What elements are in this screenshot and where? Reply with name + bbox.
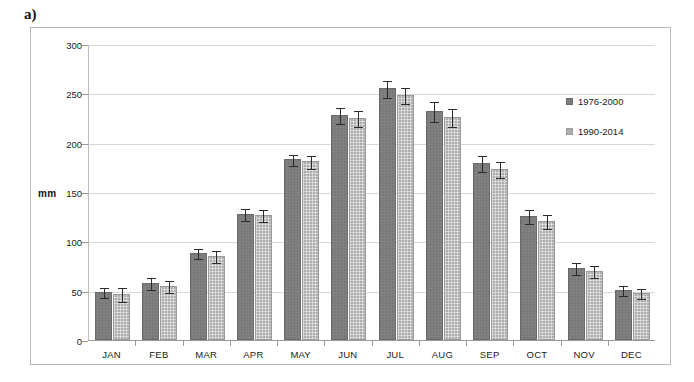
bar — [426, 111, 443, 340]
x-axis-tick-label: JUN — [338, 349, 357, 360]
y-axis-tick-label: 200 — [66, 138, 82, 149]
panel-letter: a) — [24, 6, 37, 23]
y-axis-tick-mark — [82, 292, 88, 293]
error-bar-cap — [448, 127, 457, 128]
bar — [586, 271, 603, 340]
error-bar — [198, 249, 199, 259]
bar — [142, 283, 159, 340]
x-axis-tick-label: MAR — [195, 349, 217, 360]
bar — [95, 292, 112, 340]
error-bar-cap — [619, 286, 628, 287]
bar-group — [373, 45, 420, 340]
error-bar-cap — [289, 155, 298, 156]
bar — [444, 117, 461, 340]
x-axis-tick-mark — [183, 341, 184, 346]
bar — [379, 88, 396, 340]
y-axis-tick-label: 50 — [71, 286, 82, 297]
bar — [520, 216, 537, 340]
error-bar — [340, 108, 341, 124]
x-axis-tick-mark — [324, 341, 325, 346]
bar — [208, 256, 225, 340]
error-bar-cap — [619, 296, 628, 297]
error-bar-cap — [259, 222, 268, 223]
error-bar — [594, 266, 595, 278]
x-axis-tick-label: AUG — [432, 349, 453, 360]
error-bar-cap — [212, 251, 221, 252]
error-bar-cap — [118, 288, 127, 289]
bar — [190, 253, 207, 340]
bar — [255, 215, 272, 340]
bar-group — [184, 45, 231, 340]
bar — [633, 293, 650, 340]
bar-group — [609, 45, 656, 340]
error-bar-cap — [590, 266, 599, 267]
y-axis-tick-mark — [82, 144, 88, 145]
x-axis-tick-mark — [513, 341, 514, 346]
y-axis-tick-mark — [82, 341, 88, 342]
error-bar — [452, 109, 453, 127]
error-bar — [387, 81, 388, 99]
y-axis-tick-label: 300 — [66, 40, 82, 51]
legend-swatch — [566, 98, 573, 105]
error-bar-cap — [118, 302, 127, 303]
bar — [160, 286, 177, 340]
error-bar-cap — [289, 166, 298, 167]
error-bar — [405, 88, 406, 104]
error-bar-cap — [401, 88, 410, 89]
x-axis-tick-label: OCT — [527, 349, 548, 360]
error-bar — [500, 162, 501, 178]
legend-swatch — [566, 128, 573, 135]
error-bar-cap — [383, 81, 392, 82]
error-bar-cap — [354, 111, 363, 112]
error-bar-cap — [478, 172, 487, 173]
error-bar-cap — [241, 221, 250, 222]
x-axis-tick-label: SEP — [480, 349, 500, 360]
error-bar — [547, 215, 548, 229]
error-bar-cap — [259, 210, 268, 211]
error-bar — [623, 286, 624, 296]
y-axis-tick-mark — [82, 193, 88, 194]
bar-group — [325, 45, 372, 340]
error-bar — [169, 281, 170, 293]
error-bar — [245, 209, 246, 221]
error-bar — [263, 210, 264, 222]
x-axis-tick-label: APR — [243, 349, 263, 360]
bar-group — [278, 45, 325, 340]
x-axis-tick-label: MAY — [290, 349, 310, 360]
x-axis-tick-label: NOV — [574, 349, 595, 360]
y-axis-tick-label: 250 — [66, 89, 82, 100]
legend-label: 1990-2014 — [578, 126, 623, 137]
bar-group — [467, 45, 514, 340]
y-axis-tick-mark — [82, 45, 88, 46]
error-bar — [576, 263, 577, 275]
bar — [615, 290, 632, 340]
error-bar-cap — [194, 259, 203, 260]
bar — [473, 163, 490, 340]
error-bar — [482, 156, 483, 172]
error-bar-cap — [590, 278, 599, 279]
x-axis-tick-label: JUL — [386, 349, 404, 360]
error-bar-cap — [543, 229, 552, 230]
error-bar — [122, 288, 123, 302]
error-bar-cap — [448, 109, 457, 110]
error-bar-cap — [336, 108, 345, 109]
bar — [302, 161, 319, 340]
error-bar-cap — [165, 293, 174, 294]
legend-item: 1976-2000 — [566, 96, 662, 107]
bar — [349, 118, 366, 340]
y-axis-tick-mark — [82, 242, 88, 243]
error-bar-cap — [572, 263, 581, 264]
y-axis-tick-label: 100 — [66, 237, 82, 248]
error-bar-cap — [147, 278, 156, 279]
bar-group — [136, 45, 183, 340]
plot-area — [88, 45, 655, 341]
error-bar-cap — [496, 162, 505, 163]
x-axis-tick-label: JAN — [102, 349, 121, 360]
bar — [331, 115, 348, 340]
x-axis-tick-mark — [372, 341, 373, 346]
figure-panel-a: a) 050100150200250300 mm 1976-20001990-2… — [0, 0, 694, 382]
error-bar-cap — [543, 215, 552, 216]
error-bar-cap — [637, 289, 646, 290]
x-axis-tick-mark — [561, 341, 562, 346]
y-axis-title: mm — [38, 188, 56, 199]
